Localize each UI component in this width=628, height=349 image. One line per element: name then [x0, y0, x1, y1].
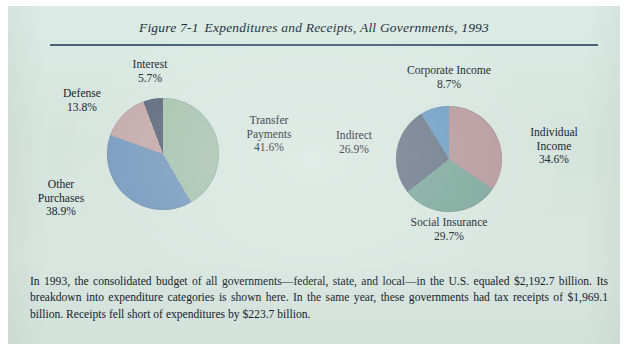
expenditures-pie-chart: Interest 5.7% Defense 13.8% Other Purcha… [8, 50, 314, 250]
label-indirect-pct: 26.9% [314, 143, 394, 157]
figure-number: Figure 7-1 [139, 20, 199, 35]
figure-page: Figure 7-1Expenditures and Receipts, All… [0, 0, 628, 349]
label-social-insurance: Social Insurance 29.7% [376, 216, 522, 243]
figure-title-text: Expenditures and Receipts, All Governmen… [205, 20, 489, 35]
expenditures-pie-graphic [107, 98, 219, 210]
label-transfer-payments: Transfer Payments 41.6% [222, 114, 316, 155]
label-indirect-name: Indirect [336, 129, 372, 142]
label-other-purchases-pct: 38.9% [14, 205, 108, 219]
label-social-name: Social Insurance [411, 216, 488, 229]
label-defense: Defense 13.8% [42, 87, 122, 114]
label-transfer-pct: 41.6% [222, 141, 316, 155]
label-other-purchases-line2: Purchases [14, 192, 108, 206]
figure-title: Figure 7-1Expenditures and Receipts, All… [8, 20, 620, 36]
label-corporate-name: Corporate Income [407, 64, 491, 77]
title-divider-rule [50, 44, 598, 46]
receipts-pie-graphic [396, 106, 502, 212]
label-corporate-pct: 8.7% [376, 78, 522, 92]
label-individual-pct: 34.6% [506, 153, 602, 167]
receipts-pie-chart: Corporate Income 8.7% Indirect 26.9% Ind… [314, 50, 620, 250]
label-individual-line1: Individual [530, 126, 578, 139]
label-social-pct: 29.7% [376, 230, 522, 244]
label-interest: Interest 5.7% [112, 58, 188, 85]
label-transfer-line2: Payments [222, 128, 316, 142]
label-interest-name: Interest [133, 58, 168, 71]
label-indirect: Indirect 26.9% [314, 129, 394, 156]
label-defense-pct: 13.8% [42, 101, 122, 115]
label-transfer-line1: Transfer [250, 114, 289, 127]
label-other-purchases: Other Purchases 38.9% [14, 178, 108, 219]
label-corporate-income: Corporate Income 8.7% [376, 64, 522, 91]
label-individual-income: Individual Income 34.6% [506, 126, 602, 167]
label-other-purchases-line1: Other [48, 178, 74, 191]
label-interest-pct: 5.7% [112, 72, 188, 86]
label-defense-name: Defense [63, 87, 101, 100]
charts-area: Interest 5.7% Defense 13.8% Other Purcha… [8, 50, 620, 250]
figure-caption: In 1993, the consolidated budget of all … [30, 274, 608, 323]
scanned-page-surface: Figure 7-1Expenditures and Receipts, All… [8, 6, 620, 344]
label-individual-line2: Income [506, 140, 602, 154]
